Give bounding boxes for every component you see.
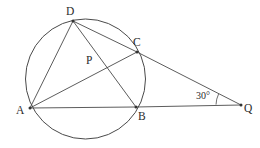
point-label-B: B [138,110,146,122]
segment-D-B [73,21,136,107]
angle-label-30-degrees: 30° [196,90,210,101]
angle-arc-marker [216,94,219,105]
point-label-P: P [86,54,92,66]
segment-A-C [30,52,137,108]
vertex-dot-A [29,107,32,110]
vertex-dot-C [136,51,139,54]
vertex-dot-D [72,20,75,23]
vertex-dot-B [135,106,138,109]
vertex-dots [29,20,243,110]
point-label-D: D [66,5,74,17]
point-label-A: A [16,104,25,116]
vertex-dot-Q [240,104,243,107]
segment-A-D [30,21,73,108]
point-label-Q: Q [244,102,253,114]
segment-C-Q [137,52,241,105]
geometry-canvas: ABCDPQ 30° [0,0,260,148]
segment-A-B [30,107,136,108]
segment-B-Q [136,105,241,107]
point-label-C: C [133,36,141,48]
geometry-figure: ABCDPQ 30° [0,0,260,148]
